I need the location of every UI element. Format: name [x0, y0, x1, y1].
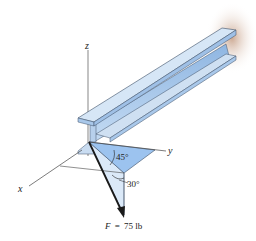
y-axis-label: y	[167, 145, 173, 156]
angle-45-label: 45°	[116, 152, 129, 162]
angle-30-label: 30°	[127, 179, 140, 189]
arrowhead-icon	[117, 206, 125, 218]
force-equals: =	[115, 221, 120, 231]
i-beam	[78, 28, 236, 154]
z-axis-label: z	[84, 40, 89, 51]
force-label: F = 75 lb	[104, 221, 143, 231]
beam-top-flange-side	[94, 30, 236, 126]
force-symbol: F	[104, 221, 111, 231]
x-axis-label: x	[17, 183, 23, 194]
force-value: 75 lb	[124, 221, 143, 231]
x-axis	[29, 150, 82, 186]
force-diagram: z y x 45° 30° F = 75 lb	[0, 0, 256, 241]
